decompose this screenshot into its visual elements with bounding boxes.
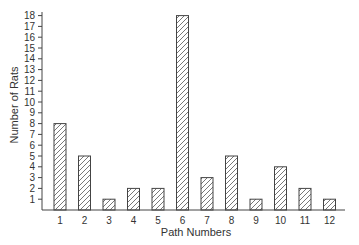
y-axis-ticks: 123456789101112131415161718 — [24, 10, 42, 205]
x-tick-label: 4 — [131, 215, 137, 226]
y-tick-label: 17 — [24, 21, 36, 32]
y-tick-label: 4 — [29, 161, 35, 172]
y-axis-label: Number of Rats — [8, 66, 20, 144]
x-tick-label: 8 — [229, 215, 235, 226]
y-tick-label: 13 — [24, 64, 36, 75]
bar-path-6 — [177, 16, 189, 210]
bar-path-1 — [54, 124, 66, 210]
bar-path-8 — [226, 156, 238, 210]
x-tick-label: 6 — [180, 215, 186, 226]
x-tick-label: 11 — [300, 215, 311, 226]
bar-path-2 — [79, 156, 91, 210]
x-axis-label: Path Numbers — [161, 226, 232, 238]
y-tick-label: 8 — [29, 118, 35, 129]
y-tick-label: 5 — [29, 151, 35, 162]
x-tick-label: 3 — [106, 215, 112, 226]
bar-chart: 123456789101112131415161718 123456789101… — [0, 0, 359, 245]
y-tick-label: 12 — [24, 75, 36, 86]
y-tick-label: 11 — [25, 86, 36, 97]
x-tick-label: 9 — [253, 215, 259, 226]
y-tick-label: 3 — [29, 172, 35, 183]
x-tick-label: 12 — [324, 215, 336, 226]
bar-path-3 — [103, 199, 115, 210]
x-axis-ticks: 123456789101112 — [57, 215, 335, 226]
bar-path-4 — [128, 188, 140, 210]
y-tick-label: 1 — [29, 194, 35, 205]
x-tick-label: 2 — [82, 215, 88, 226]
y-tick-label: 15 — [24, 43, 36, 54]
bar-path-11 — [299, 188, 311, 210]
x-tick-label: 7 — [204, 215, 210, 226]
x-tick-label: 1 — [57, 215, 63, 226]
y-tick-label: 14 — [24, 53, 36, 64]
bar-path-12 — [324, 199, 336, 210]
y-tick-label: 16 — [24, 32, 36, 43]
bar-path-10 — [275, 167, 287, 210]
y-tick-label: 18 — [24, 10, 36, 21]
bar-path-9 — [250, 199, 262, 210]
y-tick-label: 9 — [29, 107, 35, 118]
bar-path-7 — [201, 178, 213, 210]
y-tick-label: 7 — [29, 129, 35, 140]
bar-path-5 — [152, 188, 164, 210]
y-tick-label: 10 — [24, 97, 36, 108]
bars — [54, 16, 336, 210]
y-tick-label: 2 — [29, 183, 35, 194]
x-tick-label: 10 — [275, 215, 287, 226]
y-tick-label: 6 — [29, 140, 35, 151]
x-tick-label: 5 — [155, 215, 161, 226]
